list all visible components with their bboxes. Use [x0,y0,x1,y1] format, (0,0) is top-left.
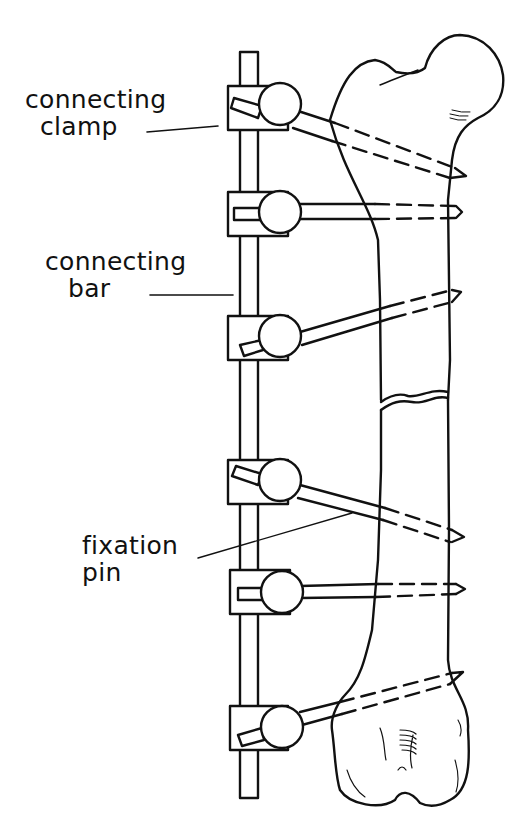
leader-line-fixation-pin [198,513,352,558]
label-connecting-bar-line2: bar [45,275,186,302]
label-connecting-clamp: connecting clamp [25,86,166,140]
label-fixation-pin: fixation pin [82,532,178,586]
clamp-pin-5[interactable] [230,570,465,614]
femur-bone [330,35,503,806]
label-connecting-bar-line1: connecting [45,248,186,275]
connecting-bar[interactable] [240,52,258,798]
clamp-pin-3[interactable] [228,290,461,360]
clamp-pin-4[interactable] [228,459,464,542]
label-fixation-pin-line2: pin [82,559,178,586]
clamp-pin-1[interactable] [228,83,466,178]
label-fixation-pin-line1: fixation [82,532,178,559]
label-connecting-clamp-line1: connecting [25,86,166,113]
clamp-pin-2[interactable] [228,191,462,236]
label-connecting-bar: connecting bar [45,248,186,302]
clamp-pin-6[interactable] [230,672,463,750]
label-connecting-clamp-line2: clamp [25,113,166,140]
